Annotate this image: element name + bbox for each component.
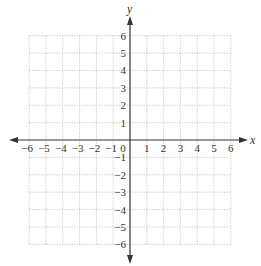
x-tick-label: 2 [161, 142, 167, 154]
y-tick-label: 2 [121, 99, 127, 111]
x-axis-left-arrow-icon [9, 137, 18, 143]
y-tick-label: −4 [114, 204, 126, 216]
x-tick-label: 6 [228, 142, 234, 154]
y-tick-label: −1 [114, 151, 126, 163]
x-tick-label: 5 [211, 142, 217, 154]
y-tick-label: −2 [114, 169, 126, 181]
y-axis-down-arrow-icon [127, 255, 133, 264]
y-tick-label: 6 [121, 30, 127, 42]
y-axis-up-arrow-icon [127, 16, 133, 25]
x-tick-label: 1 [144, 142, 150, 154]
x-tick-labels: −6−5−4−3−2−1123456 [21, 142, 234, 154]
x-tick-label: 3 [178, 142, 184, 154]
y-tick-label: 3 [121, 82, 127, 94]
x-tick-label: −5 [38, 142, 50, 154]
x-tick-label: −2 [89, 142, 101, 154]
y-tick-label: −6 [114, 238, 126, 250]
x-axis-right-arrow-icon [239, 137, 248, 143]
y-tick-label: 1 [121, 117, 127, 129]
y-tick-label: 4 [121, 64, 127, 76]
x-tick-label: −6 [21, 142, 33, 154]
x-tick-label: −3 [72, 142, 84, 154]
y-axis-label: y [126, 2, 133, 16]
y-tick-label: 5 [121, 47, 127, 59]
coordinate-plane: x y 0 −6−5−4−3−2−1123456 123456−1−2−3−4−… [0, 0, 261, 266]
y-tick-label: −3 [114, 186, 126, 198]
x-tick-label: −4 [55, 142, 67, 154]
y-tick-label: −5 [114, 221, 126, 233]
x-axis-label: x [249, 133, 256, 147]
x-tick-label: 4 [194, 142, 200, 154]
